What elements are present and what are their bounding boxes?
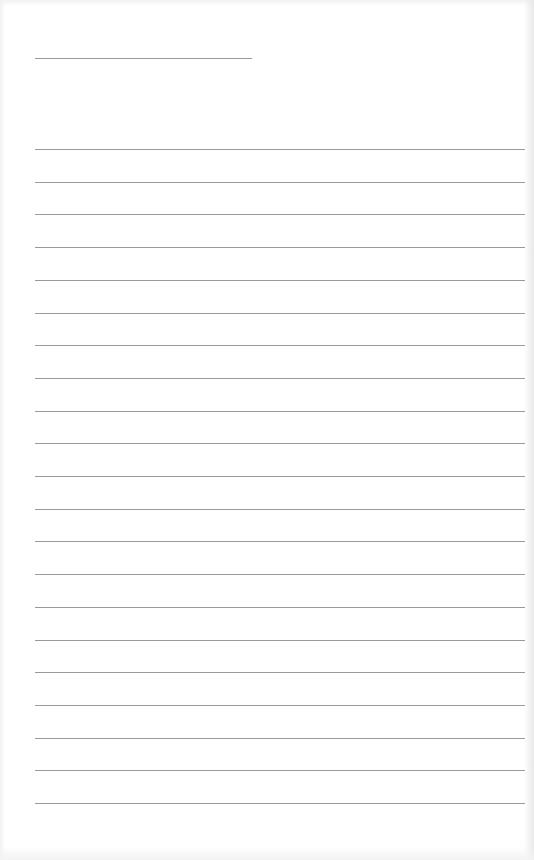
ruled-line [35,509,525,510]
right-edge-shadow [524,0,534,860]
ruled-line [35,607,525,608]
ruled-line [35,476,525,477]
ruled-line [35,214,525,215]
ruled-paper-page [0,0,534,860]
ruled-line [35,770,525,771]
ruled-line [35,411,525,412]
ruled-line [35,182,525,183]
ruled-line [35,803,525,804]
ruled-line [35,541,525,542]
ruled-line [35,672,525,673]
ruled-line [35,738,525,739]
ruled-line [35,280,525,281]
top-edge-bleed [0,0,534,6]
ruled-line [35,247,525,248]
ruled-line [35,574,525,575]
header-write-line [35,58,252,59]
ruled-line [35,378,525,379]
ruled-line [35,149,525,150]
ruled-line [35,313,525,314]
bottom-edge-bleed [0,846,534,860]
left-edge-shadow [0,0,5,860]
ruled-line [35,443,525,444]
ruled-line [35,640,525,641]
ruled-line [35,345,525,346]
ruled-line [35,705,525,706]
